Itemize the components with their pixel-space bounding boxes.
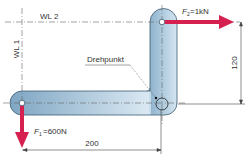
wl2-label: WL 2 [40, 12, 59, 21]
dimension-vertical-label: 120 [230, 56, 239, 70]
pivot-label: Drehpunkt [87, 55, 125, 64]
f2-label: F 2 =1kN [182, 7, 209, 17]
f2-application-point [159, 19, 165, 25]
wl1-label: WL 1 [12, 39, 21, 58]
svg-text:=1kN: =1kN [190, 7, 209, 16]
dimension-horizontal-label: 200 [85, 139, 99, 148]
svg-text:1: 1 [39, 131, 42, 137]
svg-text:=600N: =600N [43, 127, 67, 136]
f1-label: F 1 =600N [34, 127, 67, 137]
f1-application-point [19, 100, 25, 106]
angle-lever-diagram: 120 200 Drehpunkt WL 2 WL 1 F 2 =1kN F 1 [0, 0, 249, 155]
